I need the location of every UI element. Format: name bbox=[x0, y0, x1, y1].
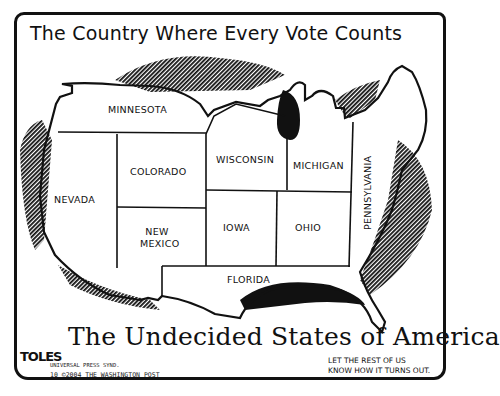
cartoon-caption: The Undecided States of America bbox=[68, 322, 500, 351]
state-label-michigan: MICHIGAN bbox=[293, 160, 344, 171]
border-michigan-pennsylvania bbox=[349, 122, 353, 267]
state-label-colorado: COLORADO bbox=[130, 166, 186, 177]
state-label-pennsylvania: PENNSYLVANIA bbox=[362, 156, 373, 230]
state-label-wisconsin: WISCONSIN bbox=[216, 154, 274, 165]
syndicate-credit: UNIVERSAL PRESS SYND. bbox=[50, 362, 120, 368]
border-minnesota-south bbox=[58, 132, 206, 133]
state-label-florida: FLORIDA bbox=[227, 274, 270, 285]
state-label-iowa: IOWA bbox=[223, 222, 250, 233]
artist-signature: TOLES bbox=[20, 342, 46, 372]
state-label-minnesota: MINNESOTA bbox=[108, 104, 167, 115]
border-colorado-newmexico bbox=[117, 207, 206, 208]
state-label-ohio: OHIO bbox=[295, 222, 321, 233]
border-wi-mi-iowa-ohio bbox=[206, 190, 352, 192]
footnote-text: LET THE REST OF US KNOW HOW IT TURNS OUT… bbox=[328, 356, 430, 376]
state-label-new-mexico: NEW MEXICO bbox=[140, 226, 174, 250]
border-iowa-ohio bbox=[276, 191, 277, 266]
copyright-credit: 10 ©2004 THE WASHINGTON POST bbox=[50, 371, 160, 379]
state-label-nevada: NEVADA bbox=[54, 194, 95, 205]
